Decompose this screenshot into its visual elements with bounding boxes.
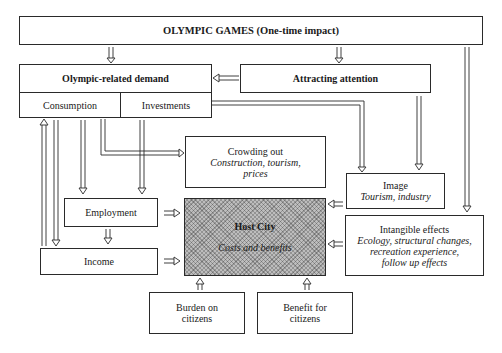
host-city-detail: Costs and benefits xyxy=(218,242,291,253)
consumption-cell: Consumption xyxy=(20,93,121,117)
arrow-games-to-demand xyxy=(107,47,115,63)
olympic-games-box: OLYMPIC GAMES (One-time impact) xyxy=(19,16,483,45)
image-box: Image Tourism, industry xyxy=(346,173,445,209)
attracting-attention-title: Attracting attention xyxy=(293,73,378,84)
benefit-line-2: citizens xyxy=(290,313,321,324)
intangible-effects-detail-3: follow up effects xyxy=(382,257,448,268)
image-detail: Tourism, industry xyxy=(360,191,430,202)
income-box: Income xyxy=(40,248,158,275)
intangible-effects-detail-2: recreation experience, xyxy=(370,246,459,257)
crowding-out-box: Crowding out Construction, tourism, pric… xyxy=(185,136,326,188)
attracting-attention-box: Attracting attention xyxy=(240,64,431,93)
host-city-title: Host City xyxy=(235,221,276,232)
arrow-demand-to-income xyxy=(52,120,60,246)
arrow-games-to-attention xyxy=(335,47,343,63)
benefit-box: Benefit for citizens xyxy=(257,292,353,334)
arrow-consumption-to-employment xyxy=(79,120,87,194)
image-title: Image xyxy=(383,180,408,191)
arrow-attention-to-image xyxy=(415,96,423,170)
arrow-benefit-to-host xyxy=(303,278,311,290)
crowding-out-detail-1: Construction, tourism, xyxy=(210,157,300,168)
intangible-effects-box: Intangible effects Ecology, structural c… xyxy=(345,215,484,276)
host-city-box: Host City Costs and benefits xyxy=(184,198,326,276)
arrow-employment-to-host xyxy=(164,209,180,217)
crowding-out-detail-2: prices xyxy=(243,168,267,179)
olympic-games-title: OLYMPIC GAMES (One-time impact) xyxy=(163,25,339,36)
investments-cell: Investments xyxy=(121,93,211,117)
olympic-demand-box: Olympic-related demand Consumption Inves… xyxy=(19,64,212,118)
arrow-income-to-host xyxy=(164,257,180,265)
employment-box: Employment xyxy=(64,198,158,227)
arrow-employment-to-income xyxy=(104,229,112,244)
burden-box: Burden on citizens xyxy=(149,292,245,334)
arrow-games-to-intangible xyxy=(463,47,471,212)
arrow-attention-to-demand xyxy=(213,74,239,82)
intangible-effects-title: Intangible effects xyxy=(380,224,450,235)
income-title: Income xyxy=(84,256,114,267)
burden-line-1: Burden on xyxy=(176,302,218,313)
crowding-out-title: Crowding out xyxy=(228,146,283,157)
benefit-line-1: Benefit for xyxy=(283,302,327,313)
intangible-effects-detail-1: Ecology, structural changes, xyxy=(357,235,471,246)
burden-line-2: citizens xyxy=(182,313,213,324)
olympic-demand-title: Olympic-related demand xyxy=(20,65,211,93)
arrow-consumption-to-crowding xyxy=(101,119,184,157)
arrow-burden-to-host xyxy=(196,278,204,290)
arrow-intangible-to-host xyxy=(328,240,343,248)
arrow-income-to-demand xyxy=(40,119,48,246)
arrow-investments-to-employment xyxy=(138,120,146,194)
arrow-image-to-host xyxy=(328,200,343,208)
employment-title: Employment xyxy=(85,207,137,218)
